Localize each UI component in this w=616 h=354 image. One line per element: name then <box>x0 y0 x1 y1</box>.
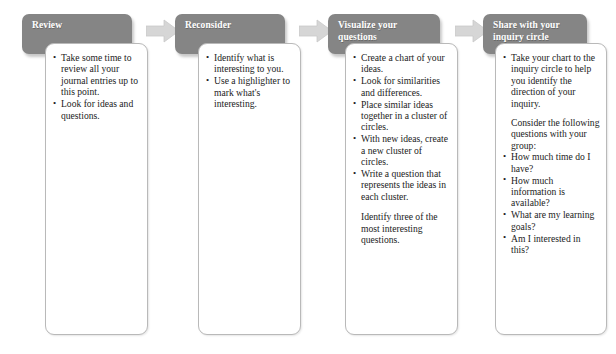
bullet-list-visualize: Create a chart of your ideas. Look for s… <box>353 52 451 202</box>
closing-note-visualize: Identify three of the most interesting q… <box>353 211 451 245</box>
inquiry-process-diagram: Review Take some time to review all your… <box>0 0 616 354</box>
list-item: Take some time to review all your journa… <box>53 52 141 98</box>
bullet-list-reconsider: Identify what is interesting to you. Use… <box>206 52 294 110</box>
step-card-reconsider: Identify what is interesting to you. Use… <box>198 43 301 335</box>
step-title-review: Review <box>32 20 124 32</box>
list-item: Look for similarities and differences. <box>353 75 451 98</box>
bullet-list-share-lead: Take your chart to the inquiry circle to… <box>503 52 600 109</box>
step-card-visualize: Create a chart of your ideas. Look for s… <box>345 43 458 335</box>
step-visualize-your-questions: Visualize your questions Create a chart … <box>328 0 458 354</box>
step-card-share: Take your chart to the inquiry circle to… <box>495 43 607 335</box>
list-item: Place similar ideas together in a cluste… <box>353 99 451 133</box>
list-item: With new ideas, create a new cluster of … <box>353 133 451 167</box>
step-card-review: Take some time to review all your journa… <box>45 43 148 335</box>
list-item: Create a chart of your ideas. <box>353 52 451 75</box>
share-consider-note: Consider the following questions with yo… <box>503 117 600 151</box>
step-review: Review Take some time to review all your… <box>22 0 148 354</box>
step-share-with-your-inquiry-circle: Share with your inquiry circle Take your… <box>483 0 607 354</box>
step-title-reconsider: Reconsider <box>185 20 277 32</box>
step-reconsider: Reconsider Identify what is interesting … <box>175 0 301 354</box>
list-item: How much information is available? <box>503 175 600 209</box>
bullet-list-review: Take some time to review all your journa… <box>53 52 141 121</box>
list-item: What are my learning goals? <box>503 209 600 232</box>
list-item: Take your chart to the inquiry circle to… <box>503 52 600 109</box>
list-item: Identify what is interesting to you. <box>206 52 294 75</box>
list-item: Write a question that represents the ide… <box>353 168 451 202</box>
list-item: Use a highlighter to mark what's interes… <box>206 75 294 109</box>
list-item: Am I interested in this? <box>503 233 600 256</box>
bullet-list-share-questions: How much time do I have? How much inform… <box>503 151 600 255</box>
step-title-visualize: Visualize your questions <box>338 20 432 43</box>
step-title-share: Share with your inquiry circle <box>493 20 579 43</box>
list-item: How much time do I have? <box>503 151 600 174</box>
list-item: Look for ideas and questions. <box>53 98 141 121</box>
